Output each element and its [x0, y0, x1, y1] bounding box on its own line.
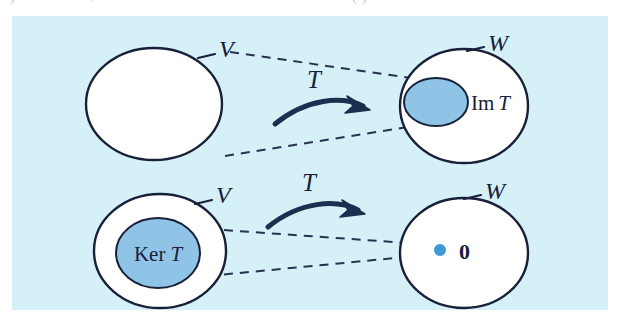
bottom-domain-label-tick [195, 200, 212, 204]
top-domain-label-tick [198, 54, 215, 58]
zero-vector-label: 0 [459, 239, 470, 264]
image-set-label-italic: T [498, 91, 511, 115]
kernel-set-label-upright: Ker [134, 242, 165, 266]
figure-diagram: V W ImT T V KerT [12, 16, 608, 310]
top-domain-label: V [219, 36, 236, 62]
bottom-map-label: T [302, 169, 318, 196]
scan-bleed-strip: ) / (-) [0, 0, 622, 13]
top-map-label: T [307, 66, 323, 93]
kernel-set-label-italic: T [170, 242, 183, 266]
top-upper-dashed-guide [230, 52, 432, 81]
bottom-codomain-label: W [485, 178, 507, 204]
top-domain-set [86, 48, 222, 160]
top-map-arrow-head [345, 96, 370, 113]
image-set-label-upright: Im [471, 91, 494, 115]
bleed-fragment-mid: / [92, 0, 96, 1]
bleed-fragment-right: (-) [352, 0, 367, 1]
figure-panel: V W ImT T V KerT [12, 16, 608, 310]
bottom-domain-label: V [216, 182, 233, 208]
zero-vector-dot [434, 244, 446, 256]
kernel-set-label: KerT [134, 242, 183, 266]
top-lower-dashed-guide [225, 123, 433, 156]
top-codomain-label: W [488, 30, 510, 56]
bottom-map-arrow-head [340, 200, 365, 217]
bleed-fragment-left: ) [10, 0, 15, 1]
figure-page: ) / (-) V W ImT T [0, 0, 622, 324]
image-set-region [404, 78, 468, 126]
image-set-label: ImT [471, 91, 511, 115]
